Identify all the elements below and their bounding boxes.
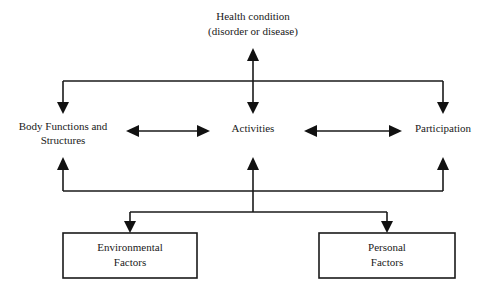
health-condition-label: Health condition [216, 10, 290, 22]
health-condition-sublabel: (disorder or disease) [208, 25, 298, 38]
arrow-down-participation-icon [437, 102, 449, 114]
body-functions-sublabel: Structures [41, 134, 86, 146]
participation-label: Participation [415, 122, 472, 134]
arrow-right-icon [389, 125, 402, 137]
personal-factors-sublabel: Factors [371, 256, 403, 268]
arrow-right-icon [197, 125, 210, 137]
bottom-connector [57, 157, 449, 212]
icf-diagram: Health condition (disorder or disease) B… [0, 0, 487, 291]
arrow-left-icon [304, 125, 317, 137]
environmental-factors-label: Environmental [97, 241, 162, 253]
arrow-down-activities-icon [247, 102, 259, 114]
node-health-condition: Health condition (disorder or disease) [208, 10, 298, 38]
arrow-down-personal-icon [381, 221, 393, 233]
environmental-factors-sublabel: Factors [114, 256, 146, 268]
top-connector [57, 48, 449, 114]
node-personal-factors: Personal Factors [319, 233, 455, 278]
activities-label: Activities [232, 122, 275, 134]
node-body-functions: Body Functions and Structures [19, 120, 108, 146]
arrow-up-participation-icon [437, 157, 449, 170]
arrow-down-body-icon [57, 102, 69, 114]
arrow-up-activities-icon [247, 157, 259, 170]
personal-factors-label: Personal [368, 241, 406, 253]
double-arrow-activities-participation [304, 125, 402, 137]
arrow-up-body-icon [57, 157, 69, 170]
arrow-up-health-icon [247, 48, 259, 61]
body-functions-label: Body Functions and [19, 120, 108, 132]
node-environmental-factors: Environmental Factors [63, 233, 197, 278]
arrow-left-icon [126, 125, 139, 137]
double-arrow-body-activities [126, 125, 210, 137]
factors-connector [124, 212, 393, 233]
arrow-down-environmental-icon [124, 221, 136, 233]
